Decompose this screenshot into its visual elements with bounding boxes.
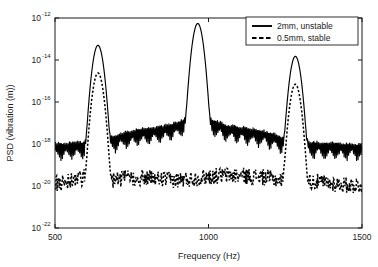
svg-text:10: 10 bbox=[32, 223, 42, 233]
y-tick-label: 10-20 bbox=[32, 179, 52, 191]
legend-label: 0.5mm, stable bbox=[277, 33, 331, 43]
psd-spectrum-figure: 5001000150010-1210-1410-1610-1810-2010-2… bbox=[0, 0, 378, 267]
series-layer bbox=[55, 23, 362, 193]
axes-layer bbox=[55, 18, 362, 228]
chart-canvas: 5001000150010-1210-1410-1610-1810-2010-2… bbox=[0, 0, 378, 267]
series-2-dashed bbox=[55, 73, 362, 193]
svg-text:-12: -12 bbox=[42, 11, 51, 17]
svg-text:10: 10 bbox=[32, 13, 42, 23]
svg-text:-22: -22 bbox=[42, 221, 51, 227]
y-axis-title: PSD (vibration (m)) bbox=[5, 84, 15, 161]
svg-text:-14: -14 bbox=[42, 53, 51, 59]
y-tick-label: 10-12 bbox=[32, 11, 52, 23]
chart-legend: 2mm, unstable0.5mm, stable bbox=[246, 17, 358, 45]
y-tick-label: 10-18 bbox=[32, 137, 52, 149]
x-axis-title: Frequency (Hz) bbox=[178, 251, 240, 261]
svg-text:10: 10 bbox=[32, 139, 42, 149]
y-tick-label: 10-16 bbox=[32, 95, 52, 107]
svg-text:-20: -20 bbox=[42, 179, 51, 185]
svg-text:10: 10 bbox=[32, 181, 42, 191]
svg-text:-18: -18 bbox=[42, 137, 51, 143]
legend-label: 2mm, unstable bbox=[277, 21, 333, 31]
svg-text:-16: -16 bbox=[42, 95, 51, 101]
x-tick-label: 500 bbox=[48, 232, 62, 242]
x-tick-label: 1000 bbox=[199, 232, 218, 242]
y-tick-label: 10-14 bbox=[32, 53, 52, 65]
tick-label-layer: 5001000150010-1210-1410-1610-1810-2010-2… bbox=[32, 11, 372, 242]
svg-text:10: 10 bbox=[32, 55, 42, 65]
x-tick-label: 1500 bbox=[353, 232, 372, 242]
svg-text:10: 10 bbox=[32, 97, 42, 107]
